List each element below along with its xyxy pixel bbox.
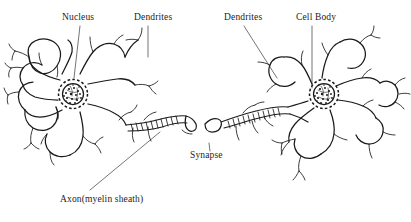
left-neuron bbox=[4, 28, 196, 165]
label-dendrites-right: Dendrites bbox=[224, 12, 262, 23]
right-neuron bbox=[221, 26, 410, 180]
right-neuron-nucleus bbox=[310, 80, 339, 109]
left-neuron-axon bbox=[119, 105, 196, 142]
right-neuron-axon bbox=[221, 102, 290, 140]
leader-lines bbox=[74, 26, 312, 190]
neuron-synapse-diagram: .ink { fill:none; stroke:#1a1a1a; stroke… bbox=[0, 0, 411, 222]
diagram-canvas: .ink { fill:none; stroke:#1a1a1a; stroke… bbox=[0, 0, 411, 222]
leader-axon bbox=[90, 132, 160, 190]
label-dendrites-left: Dendrites bbox=[134, 12, 172, 23]
leader-dendrites-right bbox=[244, 26, 277, 78]
label-axon: Axon(myelin sheath) bbox=[60, 194, 143, 205]
label-nucleus: Nucleus bbox=[62, 12, 94, 23]
left-neuron-nucleus bbox=[59, 80, 88, 109]
label-cell-body: Cell Body bbox=[296, 12, 336, 23]
synapse-gap bbox=[205, 119, 221, 132]
leader-nucleus bbox=[74, 26, 80, 78]
label-synapse: Synapse bbox=[190, 150, 223, 161]
right-neuron-dendrites bbox=[258, 26, 410, 180]
